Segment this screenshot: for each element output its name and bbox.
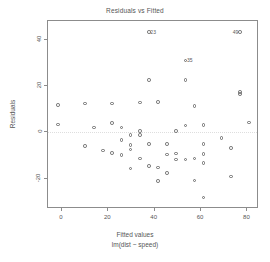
data-point	[110, 102, 114, 106]
data-point	[184, 78, 188, 82]
data-point	[174, 129, 178, 133]
data-point	[174, 158, 178, 162]
y-tick-label: 0	[39, 128, 42, 134]
data-point	[129, 167, 133, 171]
data-point	[147, 142, 151, 146]
data-point	[202, 161, 206, 165]
point-label-49: 49	[233, 30, 240, 35]
x-axis-title-line2: lm(dist ~ speed)	[0, 241, 270, 248]
data-point	[147, 164, 151, 168]
y-tick-label-text: 0	[37, 130, 43, 133]
data-point	[165, 142, 169, 146]
data-point	[247, 121, 251, 125]
y-tick-label: -20	[33, 175, 42, 181]
x-tick	[61, 208, 62, 211]
x-tick	[200, 208, 201, 211]
data-point	[193, 179, 197, 183]
data-point	[120, 126, 124, 130]
data-point	[202, 152, 206, 156]
data-point	[92, 126, 96, 130]
y-tick	[44, 131, 47, 132]
data-point	[202, 196, 206, 200]
x-tick-label: 60	[197, 214, 204, 220]
data-point	[193, 104, 197, 108]
chart-title: Residuals vs Fitted	[0, 7, 270, 14]
y-tick	[44, 39, 47, 40]
data-point	[129, 143, 133, 147]
data-point	[138, 133, 142, 137]
data-point	[184, 158, 188, 162]
x-tick-label: 80	[243, 214, 250, 220]
data-point	[229, 146, 233, 150]
data-point	[202, 142, 206, 146]
data-point	[56, 123, 60, 127]
point-label-35: 35	[185, 58, 192, 63]
y-tick-label-text: 40	[36, 35, 42, 42]
data-point	[165, 153, 169, 157]
data-point	[83, 144, 87, 148]
data-point	[147, 78, 151, 82]
data-point	[120, 153, 124, 157]
data-point	[138, 101, 142, 105]
plot-frame: 233549	[47, 20, 258, 208]
zero-reference-line	[48, 132, 257, 133]
data-point	[229, 175, 233, 179]
x-tick-label: 0	[59, 214, 62, 220]
data-point	[202, 123, 206, 127]
data-point	[110, 121, 114, 125]
data-point	[238, 90, 242, 94]
x-tick	[154, 208, 155, 211]
y-tick-label: 20	[35, 82, 42, 88]
data-point	[129, 148, 133, 152]
x-axis-title-line1: Fitted values	[0, 231, 270, 238]
data-point	[129, 133, 133, 137]
data-point	[184, 124, 188, 128]
y-axis-title: Residuals	[9, 100, 16, 129]
data-point	[156, 179, 160, 183]
data-point	[56, 103, 60, 107]
y-tick	[44, 178, 47, 179]
x-tick	[107, 208, 108, 211]
residuals-vs-fitted-plot: Residuals vs Fitted 233549 0204060804020…	[0, 0, 270, 262]
point-label-23: 23	[149, 30, 156, 35]
data-point	[220, 136, 224, 140]
x-tick-label: 20	[104, 214, 111, 220]
data-point	[156, 100, 160, 104]
x-tick	[246, 208, 247, 211]
y-tick-label-text: 20	[36, 82, 42, 89]
data-point	[165, 171, 169, 175]
y-tick	[44, 85, 47, 86]
y-tick-label-text: -20	[35, 173, 41, 182]
data-point	[120, 138, 124, 142]
data-point	[101, 149, 105, 153]
x-tick-label: 40	[150, 214, 157, 220]
data-point	[193, 157, 197, 161]
data-point	[138, 157, 142, 161]
data-point	[156, 166, 160, 170]
plot-area: 233549	[48, 21, 257, 207]
data-point	[174, 152, 178, 156]
y-tick-label: 40	[35, 36, 42, 42]
data-point	[110, 151, 114, 155]
data-point	[83, 102, 87, 106]
